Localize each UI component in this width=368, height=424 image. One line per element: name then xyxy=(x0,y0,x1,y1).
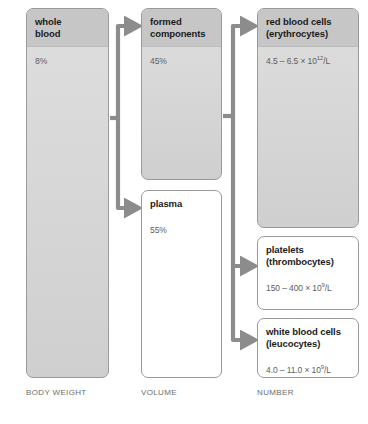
node-whole-blood[interactable]: whole blood 8% xyxy=(26,8,109,378)
node-formed-components-value: 45% xyxy=(142,47,221,67)
node-white-blood-cells-title: white blood cells (leucocytes) xyxy=(258,319,358,356)
node-red-blood-cells[interactable]: red blood cells (erythrocytes) 4.5 – 6.5… xyxy=(257,8,359,228)
column-caption-number: NUMBER xyxy=(257,388,294,397)
node-formed-components[interactable]: formed components 45% xyxy=(141,8,222,180)
node-red-blood-cells-title: red blood cells (erythrocytes) xyxy=(258,9,358,47)
node-whole-blood-title: whole blood xyxy=(27,9,108,47)
node-platelets-title: platelets (thrombocytes) xyxy=(258,237,358,274)
node-white-blood-cells[interactable]: white blood cells (leucocytes) 4.0 – 11.… xyxy=(257,318,359,378)
node-plasma-title: plasma xyxy=(142,191,221,216)
node-red-blood-cells-value: 4.5 – 6.5 × 1012/L xyxy=(258,47,358,67)
connector-formed-components-split xyxy=(223,26,245,340)
node-whole-blood-value: 8% xyxy=(27,47,108,67)
node-platelets-value: 150 – 400 × 109/L xyxy=(258,274,358,294)
column-caption-body-weight: BODY WEIGHT xyxy=(26,388,87,397)
connector-whole-blood-split xyxy=(110,26,129,208)
node-plasma-value: 55% xyxy=(142,216,221,236)
node-platelets[interactable]: platelets (thrombocytes) 150 – 400 × 109… xyxy=(257,236,359,310)
node-plasma[interactable]: plasma 55% xyxy=(141,190,222,378)
blood-composition-diagram: whole blood 8% formed components 45% pla… xyxy=(0,0,368,424)
node-white-blood-cells-value: 4.0 – 11.0 × 109/L xyxy=(258,356,358,376)
node-formed-components-title: formed components xyxy=(142,9,221,47)
column-caption-volume: VOLUME xyxy=(141,388,177,397)
